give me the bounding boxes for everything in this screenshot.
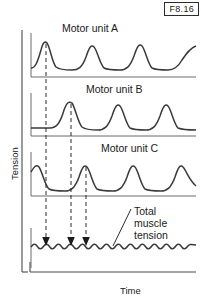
main-tension-axis <box>22 30 28 272</box>
time-axis <box>30 262 196 272</box>
panel-motor-unit-a <box>31 33 196 77</box>
trace-motor-unit-b <box>31 102 196 130</box>
trace-motor-unit-a <box>31 42 196 70</box>
figure-container: F8.16 Tension Time Motor unit A Motor un… <box>0 0 201 304</box>
guide-line-motor-unit-a <box>42 44 50 246</box>
guide-line-motor-unit-b <box>67 104 75 246</box>
panel-motor-unit-c <box>31 152 196 196</box>
panel-motor-unit-b <box>31 93 196 136</box>
figure-graphics <box>0 0 201 304</box>
panel-total-muscle-tension <box>31 228 196 268</box>
guide-line-motor-unit-c <box>82 167 90 246</box>
callout-leader-line <box>113 209 131 246</box>
trace-motor-unit-c <box>31 166 196 191</box>
